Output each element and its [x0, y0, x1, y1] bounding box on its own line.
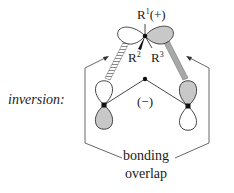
- r3-label: R3: [151, 50, 164, 65]
- right-lower-lobe: [179, 106, 196, 130]
- r1-label: R1(+): [137, 7, 166, 22]
- caption-bonding: bonding: [123, 148, 169, 163]
- top-atom-dot: [143, 34, 148, 39]
- right-arrowhead-icon: [186, 56, 192, 61]
- top-left-lobe: [118, 27, 145, 44]
- left-overlap-bond: [105, 41, 129, 80]
- left-lower-lobe: [95, 105, 112, 129]
- inversion-label: inversion:: [8, 92, 65, 107]
- center-atom-dot: [143, 77, 147, 81]
- center-charge-label: (−): [137, 94, 153, 109]
- top-right-lobe: [145, 26, 173, 44]
- inversion-orbital-diagram: inversion: R1(+) R2: [0, 0, 234, 193]
- left-atom-dot: [102, 103, 107, 108]
- left-arrowhead-icon: [103, 56, 109, 61]
- caption-overlap: overlap: [125, 166, 167, 181]
- r2-label: R2: [128, 50, 141, 65]
- right-overlap-bond: [163, 39, 188, 80]
- right-atom-dot: [186, 104, 191, 109]
